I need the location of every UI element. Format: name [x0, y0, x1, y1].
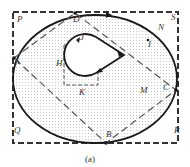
- label-N: N: [157, 22, 165, 32]
- label-R: R: [173, 125, 180, 135]
- label-P: P: [16, 14, 23, 24]
- label-D: D: [72, 14, 80, 24]
- figure-caption: (a): [85, 154, 95, 164]
- point-C: [174, 88, 178, 92]
- label-H: H: [55, 58, 63, 68]
- label-C: C: [163, 82, 170, 92]
- label-A: A: [13, 56, 20, 66]
- label-B: B: [106, 129, 112, 139]
- label-M: M: [139, 85, 148, 95]
- label-S: S: [171, 12, 176, 22]
- label-Q: Q: [14, 125, 21, 135]
- point-B: [104, 141, 108, 145]
- label-K: K: [78, 87, 86, 97]
- diagram-canvas: P D S N I A J H K M C B Q R (a): [0, 0, 190, 167]
